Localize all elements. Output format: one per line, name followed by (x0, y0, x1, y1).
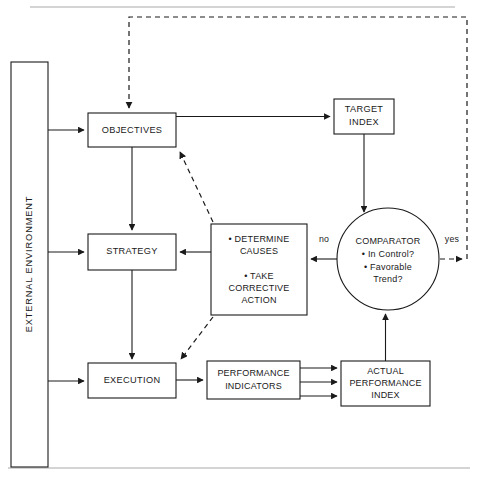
node-strategy-label: STRATEGY (106, 246, 158, 256)
node-target-index-line1: TARGET (345, 104, 384, 114)
node-performance-indicators-line1: PERFORMANCE (217, 368, 289, 378)
node-corrective-action-line2: CAUSES (240, 246, 278, 256)
node-corrective-action-line5: ACTION (241, 295, 276, 305)
node-objectives-label: OBJECTIVES (102, 125, 163, 135)
node-execution-label: EXECUTION (104, 375, 161, 385)
flowchart-canvas: EXTERNAL ENVIRONMENT OBJECTIVES STRATEGY… (0, 0, 480, 477)
node-comparator-title: COMPARATOR (355, 236, 420, 246)
node-corrective-action-line4: CORRECTIVE (228, 283, 289, 293)
node-corrective-action-line1: • DETERMINE (229, 234, 290, 244)
node-comparator-bullet-1: • In Control? (362, 249, 414, 259)
node-performance-indicators-line2: INDICATORS (225, 381, 282, 391)
edge-label-no: no (319, 234, 329, 244)
node-target-index-line2: INDEX (349, 117, 379, 127)
node-comparator-bullet-2: • Favorable (364, 262, 412, 272)
node-comparator-bullet-3: Trend? (373, 274, 402, 284)
edge-corrective-to-objectives (180, 152, 213, 222)
flowchart-diagram: EXTERNAL ENVIRONMENT OBJECTIVES STRATEGY… (0, 0, 480, 477)
edge-corrective-to-execution (181, 317, 213, 359)
node-actual-performance-index-line3: INDEX (371, 390, 400, 400)
node-actual-performance-index-line1: ACTUAL (367, 366, 404, 376)
edge-label-yes: yes (445, 234, 460, 244)
node-external-environment-label: EXTERNAL ENVIRONMENT (24, 196, 34, 333)
node-corrective-action-line3: • TAKE (244, 271, 274, 281)
node-actual-performance-index-line2: PERFORMANCE (349, 378, 421, 388)
